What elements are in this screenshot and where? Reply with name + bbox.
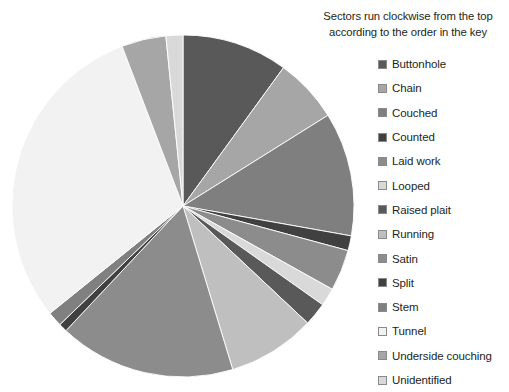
legend-swatch-icon bbox=[378, 376, 387, 385]
legend-swatch-icon bbox=[378, 181, 387, 190]
legend-item[interactable]: Underside couching bbox=[378, 344, 509, 368]
legend-item[interactable]: Looped bbox=[378, 173, 509, 197]
legend-label: Counted bbox=[392, 131, 435, 143]
legend-swatch-icon bbox=[378, 157, 387, 166]
legend-swatch-icon bbox=[378, 278, 387, 287]
legend-label: Satin bbox=[392, 253, 418, 265]
legend-swatch-icon bbox=[378, 60, 387, 69]
pie-chart: Sectors run clockwise from the top accor… bbox=[0, 0, 509, 392]
legend-item[interactable]: Unidentified bbox=[378, 368, 509, 392]
legend-label: Buttonhole bbox=[392, 58, 446, 70]
legend-label: Underside couching bbox=[392, 350, 492, 362]
legend-swatch-icon bbox=[378, 303, 387, 312]
legend-label: Couched bbox=[392, 107, 437, 119]
legend-item[interactable]: Satin bbox=[378, 246, 509, 270]
legend-item[interactable]: Tunnel bbox=[378, 319, 509, 343]
legend-item[interactable]: Laid work bbox=[378, 149, 509, 173]
legend-label: Unidentified bbox=[392, 374, 452, 386]
legend: Sectors run clockwise from the top accor… bbox=[307, 0, 509, 392]
legend-label: Split bbox=[392, 277, 414, 289]
legend-item[interactable]: Chain bbox=[378, 76, 509, 100]
legend-label: Chain bbox=[392, 82, 422, 94]
legend-title: Sectors run clockwise from the top accor… bbox=[307, 8, 509, 40]
legend-label: Laid work bbox=[392, 155, 440, 167]
legend-swatch-icon bbox=[378, 84, 387, 93]
legend-item[interactable]: Running bbox=[378, 222, 509, 246]
legend-item[interactable]: Split bbox=[378, 271, 509, 295]
legend-swatch-icon bbox=[378, 351, 387, 360]
legend-item[interactable]: Raised plait bbox=[378, 198, 509, 222]
legend-items: ButtonholeChainCouchedCountedLaid workLo… bbox=[378, 52, 509, 392]
legend-swatch-icon bbox=[378, 108, 387, 117]
legend-label: Looped bbox=[392, 180, 430, 192]
legend-item[interactable]: Buttonhole bbox=[378, 52, 509, 76]
legend-item[interactable]: Counted bbox=[378, 125, 509, 149]
legend-title-line-1: Sectors run clockwise from the top bbox=[307, 8, 509, 24]
pie-slices bbox=[12, 35, 354, 377]
legend-label: Stem bbox=[392, 301, 418, 313]
legend-label: Running bbox=[392, 228, 434, 240]
legend-label: Raised plait bbox=[392, 204, 451, 216]
legend-swatch-icon bbox=[378, 327, 387, 336]
legend-item[interactable]: Stem bbox=[378, 295, 509, 319]
legend-label: Tunnel bbox=[392, 325, 426, 337]
legend-item[interactable]: Couched bbox=[378, 101, 509, 125]
legend-swatch-icon bbox=[378, 230, 387, 239]
legend-swatch-icon bbox=[378, 205, 387, 214]
legend-swatch-icon bbox=[378, 254, 387, 263]
legend-swatch-icon bbox=[378, 133, 387, 142]
legend-title-line-2: according to the order in the key bbox=[307, 24, 509, 40]
